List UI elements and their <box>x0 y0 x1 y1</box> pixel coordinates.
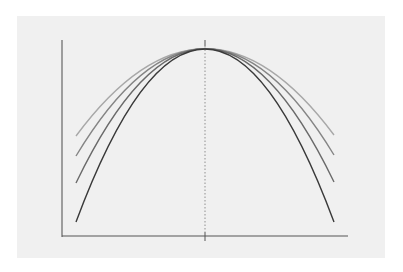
parabola-diagram <box>0 0 403 272</box>
